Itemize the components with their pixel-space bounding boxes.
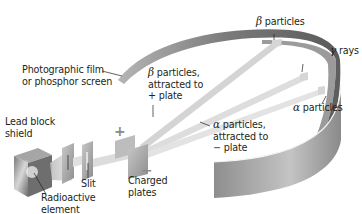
leader-gamma-hit bbox=[302, 64, 303, 72]
alpha-attracted-label: α particles, attracted to − plate bbox=[213, 119, 268, 154]
charged-plates-label: Charged plates bbox=[128, 175, 167, 198]
screen-label: Photographic film or phosphor screen bbox=[22, 64, 112, 87]
slit-label: Slit bbox=[81, 178, 96, 190]
gamma-hit-label: γ rays bbox=[330, 45, 359, 57]
beta-spot bbox=[272, 39, 282, 47]
positive-sign: + bbox=[114, 124, 126, 138]
alpha-hit-label: α particles bbox=[293, 102, 343, 114]
lead-block-label: Lead block shield bbox=[5, 116, 55, 139]
beta-hit-label: β particles bbox=[256, 16, 305, 28]
alpha-spot bbox=[318, 86, 325, 95]
radioactive-element-label: Radioactive element bbox=[41, 192, 95, 214]
radiation-diagram: + − Photographic film or phosphor screen… bbox=[0, 0, 362, 214]
gamma-spot bbox=[300, 72, 308, 81]
lead-block bbox=[14, 148, 52, 197]
beta-attracted-label: β particles, attracted to + plate bbox=[148, 67, 203, 102]
